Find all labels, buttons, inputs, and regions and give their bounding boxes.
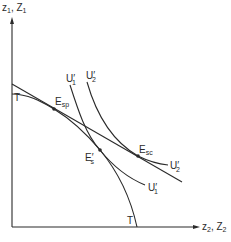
e-s-prime-label: E′s	[85, 152, 95, 165]
y-axis-arrow-icon	[10, 17, 14, 24]
transformation-curve	[12, 94, 137, 227]
transformation-label-bottom: T	[127, 215, 133, 226]
e-sc-label: Esc	[139, 144, 153, 156]
point-e-sp	[52, 107, 56, 111]
indifference-curve-u2	[87, 82, 168, 165]
price-line	[12, 84, 182, 182]
x-axis-arrow-icon	[193, 225, 200, 229]
x-axis-label: z2, Z2	[202, 221, 227, 233]
y-axis-label: z1, Z1	[2, 2, 27, 14]
e-sp-label: Esp	[55, 96, 69, 109]
point-e-s-prime	[98, 148, 102, 152]
u2-label-top: U′2	[86, 70, 96, 83]
indifference-curve-u1	[70, 85, 145, 185]
transformation-label-top: T	[14, 92, 20, 103]
u2-label-right: U′2	[170, 160, 180, 173]
diagram-canvas: z1, Z1 z2, Z2 T T U′1 U′1 U′2 U′2 Esp E′…	[0, 0, 231, 242]
u1-label-right: U′1	[148, 182, 158, 195]
u1-label-top: U′1	[66, 73, 76, 86]
